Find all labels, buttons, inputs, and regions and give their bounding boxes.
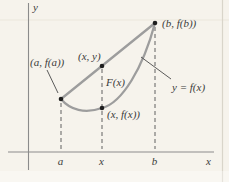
dot-point-xfx — [100, 106, 105, 111]
label-point-xy: (x, y) — [78, 50, 101, 63]
scan-artifact-bottom-band — [0, 171, 229, 182]
tick-label-x: x — [98, 155, 104, 167]
label-segment-F: F(x) — [105, 76, 125, 89]
tick-label-b: b — [152, 155, 158, 167]
label-point-a: (a, f(a)) — [30, 56, 65, 69]
x-axis-label: x — [205, 155, 211, 167]
label-curve-equation: y = f(x) — [171, 81, 205, 94]
dot-point-b — [153, 21, 158, 26]
figure-page: y x a x b (a, f(a)) (x, y) F(x) (x, f(x)… — [0, 0, 229, 182]
function-diagram: y x a x b (a, f(a)) (x, y) F(x) (x, f(x)… — [0, 0, 229, 182]
y-axis-label: y — [32, 1, 38, 13]
label-point-b: (b, f(b)) — [162, 17, 197, 30]
dot-point-xy — [100, 64, 105, 69]
tick-label-a: a — [58, 155, 64, 167]
label-point-xfx: (x, f(x)) — [107, 108, 140, 121]
dot-point-a — [59, 97, 64, 102]
